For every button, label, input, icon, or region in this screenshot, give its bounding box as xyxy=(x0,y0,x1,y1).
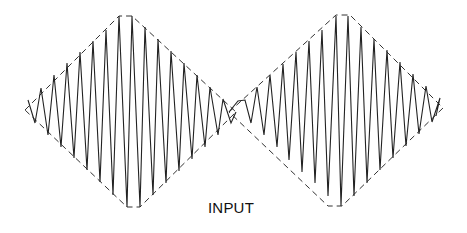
right-lobe xyxy=(229,15,443,206)
input-label: INPUT xyxy=(206,199,256,216)
left-carrier-wave xyxy=(28,16,236,207)
left-envelope xyxy=(25,16,236,207)
left-lobe xyxy=(25,16,236,207)
right-envelope xyxy=(229,15,443,206)
right-carrier-wave xyxy=(229,16,440,206)
